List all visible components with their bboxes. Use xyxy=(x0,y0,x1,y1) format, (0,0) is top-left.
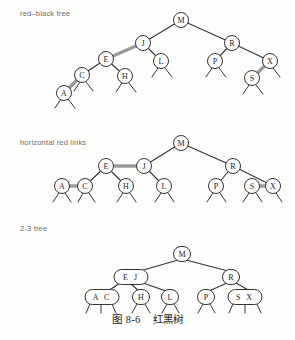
node-label: P xyxy=(204,293,209,302)
figure-caption-title: 红黑树 xyxy=(153,314,183,325)
node-label: L xyxy=(168,293,173,302)
null-stub xyxy=(243,85,249,94)
figure-red-black-tree: M J R E L P X xyxy=(0,0,295,340)
null-stub xyxy=(53,193,59,202)
node-label: S xyxy=(250,74,254,83)
node-R[interactable]: R xyxy=(226,159,241,174)
null-stub xyxy=(68,99,75,108)
figure-caption: 图 8-6红黑树 xyxy=(0,311,295,326)
panel-label-red-black-tree: red–black tree xyxy=(20,9,70,18)
null-stub xyxy=(165,68,172,77)
node-J[interactable]: J xyxy=(137,159,152,174)
node-label: M xyxy=(177,139,184,148)
panel-label-two-three-tree: 2-3 tree xyxy=(20,224,47,233)
null-stub xyxy=(78,193,83,202)
node-C[interactable]: C xyxy=(75,68,90,83)
null-stub xyxy=(207,193,213,202)
link-M-EJ xyxy=(140,260,178,271)
node-C[interactable]: C xyxy=(78,179,93,194)
node-P[interactable]: P xyxy=(208,54,223,69)
node-L[interactable]: L xyxy=(157,179,172,194)
node-S[interactable]: S xyxy=(245,179,260,194)
null-stub xyxy=(86,82,93,91)
node-H[interactable]: H xyxy=(133,290,150,305)
null-stub xyxy=(130,193,136,202)
null-stub xyxy=(55,99,61,108)
node-M[interactable]: M xyxy=(174,247,191,262)
node-label: A xyxy=(59,182,65,191)
node-label: C xyxy=(82,182,87,191)
null-stub xyxy=(256,85,263,94)
node-S[interactable]: S xyxy=(245,71,260,86)
node-E[interactable]: E xyxy=(99,159,114,174)
node-label: S xyxy=(250,182,254,191)
node-label: L xyxy=(162,182,167,191)
node-J[interactable]: J xyxy=(136,36,151,51)
panel2-nodes: M E J R A C H xyxy=(55,136,281,194)
null-stub xyxy=(206,68,212,77)
null-stub xyxy=(219,68,226,77)
panel-two-three-tree: M E J R A C H L xyxy=(85,247,262,314)
node-L[interactable]: L xyxy=(154,54,169,69)
node-X[interactable]: X xyxy=(266,179,281,194)
node-label: X xyxy=(270,182,276,191)
null-stub xyxy=(117,193,123,202)
node-SX[interactable]: S X xyxy=(228,290,262,305)
link-EJ-L xyxy=(143,283,166,291)
node-label: H xyxy=(138,293,144,302)
node-P[interactable]: P xyxy=(209,179,224,194)
node-A[interactable]: A xyxy=(57,86,72,101)
null-stub xyxy=(256,193,262,202)
node-R[interactable]: R xyxy=(225,36,240,51)
node-label: M xyxy=(177,16,184,25)
node-label: E xyxy=(104,55,109,64)
node-A[interactable]: A xyxy=(55,179,70,194)
null-stub xyxy=(152,68,158,77)
null-stub xyxy=(243,193,249,202)
node-EJ[interactable]: E J xyxy=(114,270,148,285)
node-AC[interactable]: A C xyxy=(85,290,119,305)
null-stub xyxy=(65,193,71,202)
null-stub xyxy=(276,193,282,202)
node-label: P xyxy=(214,182,219,191)
panel2-null-links xyxy=(53,193,282,202)
node-label: L xyxy=(159,57,164,66)
node-label: P xyxy=(213,57,218,66)
panel3-nodes: M E J R A C H L xyxy=(85,247,262,305)
panel-label-horizontal-links: horizontal red links xyxy=(20,138,86,147)
null-stub xyxy=(220,193,226,202)
node-E[interactable]: E xyxy=(99,52,114,67)
node-label: R xyxy=(230,162,236,171)
panel1-red-links xyxy=(64,43,270,93)
figure-caption-number: 图 8-6 xyxy=(112,314,140,325)
node-label: A xyxy=(61,89,67,98)
link-R-P xyxy=(209,283,227,291)
panel-horizontal-links: M E J R A C H xyxy=(53,136,282,203)
node-M[interactable]: M xyxy=(174,13,189,28)
node-P[interactable]: P xyxy=(198,290,215,305)
node-X[interactable]: X xyxy=(263,54,278,69)
node-label: R xyxy=(229,39,235,48)
null-stub xyxy=(129,83,136,92)
null-stub xyxy=(155,193,161,202)
null-stub xyxy=(89,193,95,202)
node-label: X xyxy=(267,57,273,66)
node-L[interactable]: L xyxy=(162,290,179,305)
black-link-M-R xyxy=(181,20,232,43)
node-label: H xyxy=(123,182,129,191)
node-H[interactable]: H xyxy=(119,179,134,194)
node-label: C xyxy=(79,71,84,80)
null-stub xyxy=(273,68,280,77)
node-H[interactable]: H xyxy=(118,69,133,84)
node-label: R xyxy=(228,273,234,282)
node-label: S X xyxy=(236,293,254,302)
null-stub xyxy=(168,193,174,202)
node-label: H xyxy=(122,72,128,81)
node-label: J xyxy=(142,162,145,171)
node-label: E J xyxy=(123,273,139,282)
node-label: J xyxy=(141,39,144,48)
node-R[interactable]: R xyxy=(223,270,240,285)
node-M[interactable]: M xyxy=(174,136,189,151)
black-link-M-R xyxy=(181,143,233,166)
node-label: E xyxy=(104,162,109,171)
